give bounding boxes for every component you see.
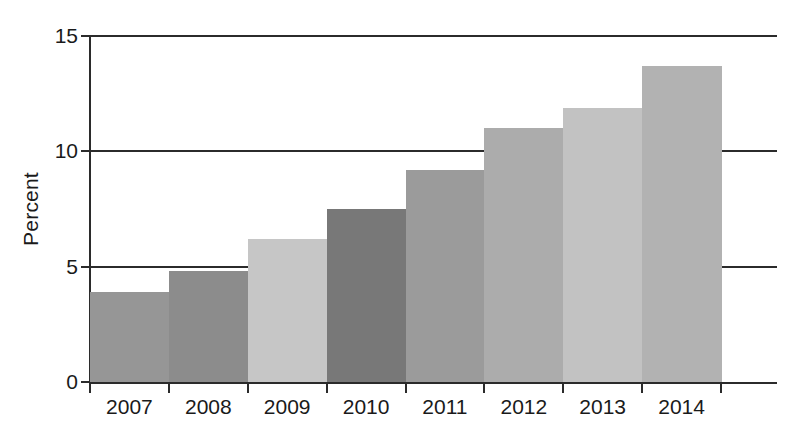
y-tick-label-0: 0	[34, 371, 78, 392]
bar-2010	[327, 209, 406, 382]
plot-area	[90, 36, 721, 382]
x-tick-mark-2	[247, 382, 249, 393]
y-axis-tick-labels: 15 10 5 0	[20, 0, 78, 443]
x-tick-mark-3	[326, 382, 328, 393]
bar-2008	[169, 271, 248, 382]
x-tick-label-2008: 2008	[169, 396, 248, 417]
x-tick-label-2014: 2014	[642, 396, 721, 417]
x-axis-line	[90, 382, 777, 384]
x-tick-label-2009: 2009	[248, 396, 327, 417]
x-tick-label-2012: 2012	[484, 396, 563, 417]
bar-chart: Percent 15 10 5 0 2007200820092010201120…	[0, 0, 805, 443]
bar-2011	[406, 170, 485, 382]
x-tick-label-2011: 2011	[405, 396, 484, 417]
x-tick-mark-4	[405, 382, 407, 393]
x-tick-label-2010: 2010	[327, 396, 406, 417]
x-tick-mark-1	[168, 382, 170, 393]
x-tick-mark-7	[641, 382, 643, 393]
x-tick-mark-6	[562, 382, 564, 393]
x-tick-label-2013: 2013	[563, 396, 642, 417]
bar-2014	[642, 66, 721, 382]
x-tick-mark-5	[483, 382, 485, 393]
bar-2009	[248, 239, 327, 382]
x-tick-mark-8	[720, 382, 722, 393]
bar-2012	[484, 128, 563, 382]
y-tick-label-5: 5	[34, 256, 78, 277]
y-tick-label-10: 10	[34, 140, 78, 161]
x-tick-mark-0	[89, 382, 91, 393]
bar-2007	[90, 292, 169, 382]
y-tick-label-15: 15	[34, 25, 78, 46]
bar-2013	[563, 108, 642, 382]
x-tick-label-2007: 2007	[90, 396, 169, 417]
